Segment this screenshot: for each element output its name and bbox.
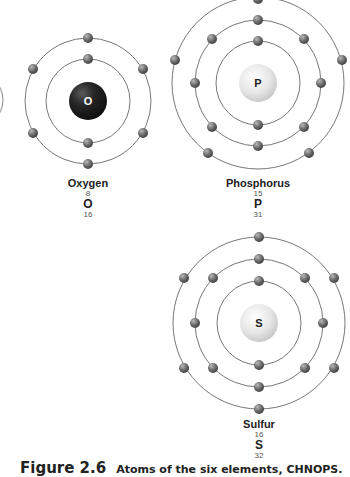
- phosphorus-label: Phosphorus 15 P 31: [218, 177, 298, 219]
- phosphorus-nucleus-symbol: P: [254, 77, 261, 89]
- figure-number: Figure 2.6: [20, 459, 106, 477]
- element-name: Phosphorus: [218, 177, 298, 189]
- element-symbol: P: [218, 198, 298, 210]
- element-name: Sulfur: [219, 418, 299, 430]
- caption-text: Atoms of the six elements, CHNOPS.: [116, 463, 342, 476]
- sulfur-label: Sulfur 16 S 32: [219, 418, 299, 460]
- mass-number: 16: [48, 210, 128, 219]
- sulfur-nucleus-symbol: S: [255, 317, 262, 329]
- element-symbol: O: [48, 198, 128, 210]
- figure-caption: Figure 2.6Atoms of the six elements, CHN…: [20, 458, 342, 477]
- mass-number: 31: [218, 210, 298, 219]
- oxygen-label: Oxygen 8 O 16: [48, 177, 128, 219]
- element-name: Oxygen: [48, 177, 128, 189]
- oxygen-nucleus-symbol: O: [84, 95, 93, 107]
- cropped-atom-left: [0, 70, 3, 130]
- element-symbol: S: [219, 439, 299, 451]
